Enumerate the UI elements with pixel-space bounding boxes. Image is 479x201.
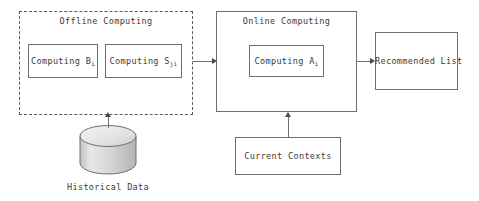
group-offline-computing-title: Offline Computing [19,17,193,26]
node-historical-data[interactable] [78,125,138,183]
edge-contexts-to-online-arrowhead [285,112,291,117]
node-recommended-list-label: Recommended List [375,57,458,66]
group-online-computing-title: Online Computing [216,17,357,26]
edge-historical-to-offline-line [108,116,109,128]
node-computing-s-label: Computing Sji [105,57,182,66]
node-computing-a-label: Computing Ai [249,57,324,66]
node-historical-data-label: Historical Data [48,183,168,192]
node-computing-b-text: Computing B [31,56,91,66]
node-computing-s-subscript: ji [170,60,178,67]
edge-online-to-recommended-arrowhead [370,58,375,64]
edge-historical-to-offline-arrowhead [105,112,111,117]
edge-contexts-to-online-line [288,116,289,138]
cylinder-icon [78,125,138,179]
node-computing-b-label: Computing Bi [28,57,98,66]
node-computing-a-text: Computing A [255,56,315,66]
node-computing-s-text: Computing S [110,56,170,66]
edge-online-to-recommended-line [357,61,371,62]
edge-offline-to-online-line [193,61,213,62]
edge-offline-to-online-arrowhead [212,58,217,64]
node-computing-a-subscript: i [315,60,319,67]
node-current-contexts-label: Current Contexts [235,152,341,161]
diagram-canvas: Offline Computing Computing Bi Computing… [0,0,479,201]
node-computing-b-subscript: i [91,60,95,67]
